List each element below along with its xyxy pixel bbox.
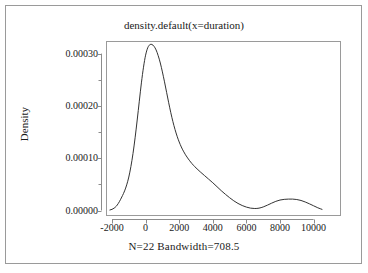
figure-container: density.default(x=duration) N=22 Bandwid…: [0, 0, 368, 273]
density-curve: [110, 44, 322, 210]
axis-lines-and-ticks: [98, 54, 315, 224]
plot-area: [0, 0, 368, 273]
plot-box: [107, 42, 341, 216]
